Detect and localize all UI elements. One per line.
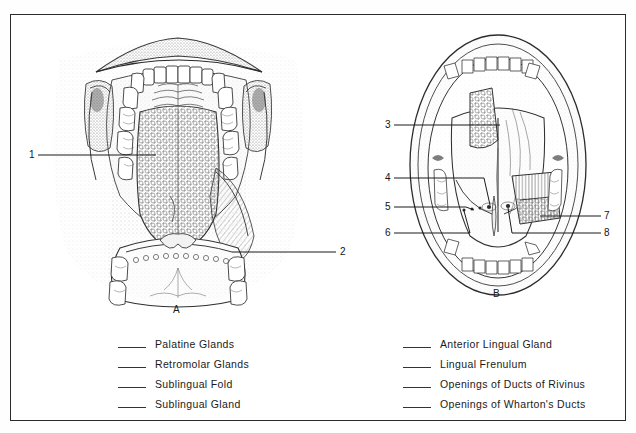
callout-number-4: 4 [385, 172, 391, 183]
panel-b-illustration [394, 35, 601, 295]
panel-b-caption: B [493, 288, 500, 299]
answer-blank[interactable] [403, 347, 431, 348]
legend-item[interactable]: Lingual Frenulum [403, 354, 586, 374]
panel-a-caption: A [173, 304, 180, 315]
answer-blank[interactable] [403, 407, 431, 408]
callout-number-6: 6 [385, 227, 391, 238]
answer-blank[interactable] [118, 407, 146, 408]
callout-number-3: 3 [385, 119, 391, 130]
legend-label: Openings of Wharton's Ducts [440, 398, 586, 410]
legend-label: Openings of Ducts of Rivinus [440, 378, 585, 390]
legend-item[interactable]: Anterior Lingual Gland [403, 334, 586, 354]
figure-page: 1 2 3 4 5 6 7 8 A B Palatine Glands Retr… [0, 0, 636, 433]
legend-item[interactable]: Retromolar Glands [118, 354, 249, 374]
legend-item[interactable]: Sublingual Fold [118, 374, 249, 394]
legend-item[interactable]: Sublingual Gland [118, 394, 249, 414]
legend-label: Sublingual Fold [155, 378, 233, 390]
callout-number-7: 7 [604, 210, 610, 221]
callout-number-8: 8 [604, 227, 610, 238]
panel-a-illustration [38, 24, 336, 314]
answer-blank[interactable] [118, 367, 146, 368]
legend-item[interactable]: Openings of Ducts of Rivinus [403, 374, 586, 394]
legend-label: Lingual Frenulum [440, 358, 527, 370]
answer-blank[interactable] [118, 347, 146, 348]
callout-number-1: 1 [29, 149, 35, 160]
answer-blank[interactable] [403, 367, 431, 368]
legend-left-column: Palatine Glands Retromolar Glands Sublin… [118, 334, 249, 414]
legend-label: Palatine Glands [155, 338, 234, 350]
callout-number-5: 5 [385, 201, 391, 212]
callout-number-2: 2 [340, 246, 346, 257]
answer-blank[interactable] [118, 387, 146, 388]
answer-blank[interactable] [403, 387, 431, 388]
legend-item[interactable]: Palatine Glands [118, 334, 249, 354]
legend-label: Sublingual Gland [155, 398, 241, 410]
legend-label: Retromolar Glands [155, 358, 249, 370]
legend-item[interactable]: Openings of Wharton's Ducts [403, 394, 586, 414]
legend-label: Anterior Lingual Gland [440, 338, 552, 350]
legend-right-column: Anterior Lingual Gland Lingual Frenulum … [403, 334, 586, 414]
